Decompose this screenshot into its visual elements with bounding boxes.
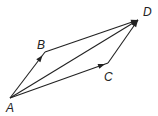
point-label-C: C <box>104 70 113 84</box>
point-label-D: D <box>143 5 152 19</box>
point-label-B: B <box>37 38 45 52</box>
point-label-A: A <box>5 101 14 115</box>
vector-BD <box>45 20 138 52</box>
diagram-canvas: ABCD <box>0 0 158 116</box>
arrowheads <box>36 20 138 69</box>
vector-AD <box>10 20 138 98</box>
vector-CD <box>108 20 138 63</box>
vector-segments <box>10 20 138 98</box>
arrowhead-icon <box>36 55 42 62</box>
point-labels: ABCD <box>5 5 152 115</box>
vector-diagram: ABCD <box>0 0 158 116</box>
arrowhead-icon <box>98 64 105 69</box>
